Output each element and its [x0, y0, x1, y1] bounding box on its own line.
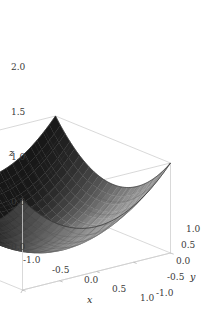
y-tick-label: 0.0 [176, 257, 190, 266]
z-tick-label: 1.5 [11, 108, 25, 117]
z-tick-label: 0.5 [11, 198, 25, 207]
z-tick-label: 2.0 [11, 63, 25, 72]
surface-mesh [0, 116, 171, 253]
surface-plot-canvas [0, 0, 211, 313]
y-tick-label: -1.0 [156, 289, 173, 298]
x-tick-label: -0.5 [52, 266, 69, 275]
y-tick-label: 0.5 [181, 241, 195, 250]
x-tick-label: 0.0 [84, 276, 98, 285]
x-tick-label: -1.0 [23, 256, 40, 265]
x-axis-label: x [87, 295, 92, 305]
y-axis-label: y [190, 272, 195, 282]
z-tick-label: 0.0 [11, 243, 25, 252]
x-tick-label: 0.5 [112, 285, 126, 294]
x-tick-label: 1.0 [140, 294, 154, 303]
surface-plot-figure: 2.0 1.5 1.0 0.5 0.0 z -1.0 -0.5 0.0 0.5 … [0, 0, 211, 313]
z-axis-label: z [9, 148, 14, 158]
y-tick-label: -0.5 [167, 273, 184, 282]
y-tick-label: 1.0 [186, 225, 200, 234]
